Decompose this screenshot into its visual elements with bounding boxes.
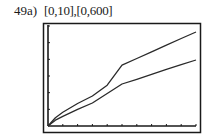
curve-upper	[48, 32, 196, 126]
graph-plot	[0, 0, 209, 136]
curve-lower	[48, 60, 196, 126]
